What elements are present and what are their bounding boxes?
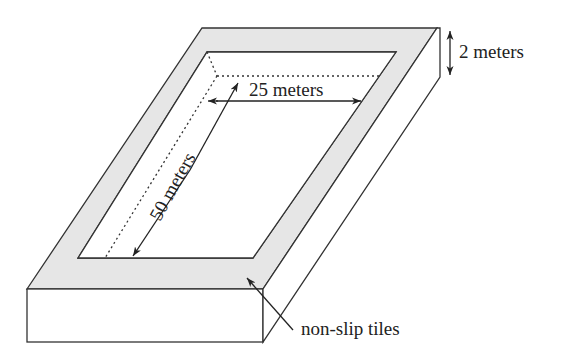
front-face [27, 289, 263, 342]
depth-label: 2 meters [459, 41, 524, 62]
tiles-label: non-slip tiles [301, 318, 400, 339]
width-label: 25 meters [249, 79, 323, 100]
pool-diagram: 25 meters 50 meters 2 meters non-slip ti… [0, 0, 565, 361]
